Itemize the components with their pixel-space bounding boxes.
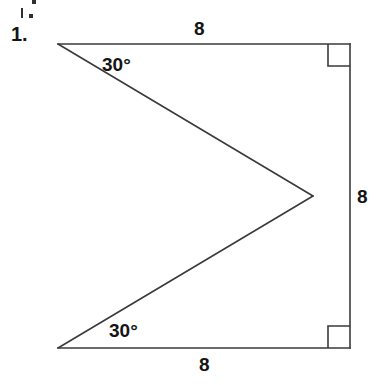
length-label-right: 8 xyxy=(357,187,368,206)
length-label-bottom: 8 xyxy=(199,355,210,374)
length-label-top: 8 xyxy=(194,19,205,38)
problem-number: 1. xyxy=(11,24,28,44)
angle-label-bottom: 30° xyxy=(109,321,138,340)
geometry-figure: 1. 8 8 8 30° 30° xyxy=(0,0,383,385)
segment-upper-diagonal xyxy=(58,44,313,196)
segment-lower-diagonal xyxy=(58,196,313,348)
right-angle-marker-bottom-icon xyxy=(328,326,350,348)
geometry-drawing xyxy=(0,0,383,385)
angle-label-top: 30° xyxy=(102,55,131,74)
right-angle-marker-top-icon xyxy=(328,44,350,66)
